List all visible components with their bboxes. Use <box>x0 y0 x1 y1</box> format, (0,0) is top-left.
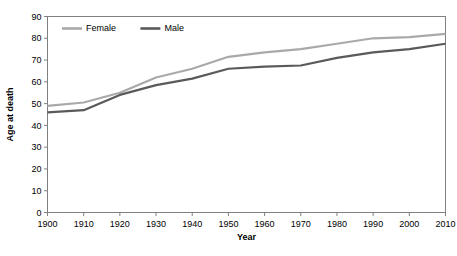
y-tick-label: 40 <box>31 121 41 131</box>
y-tick-label: 10 <box>31 186 41 196</box>
y-tick-label: 70 <box>31 55 41 65</box>
y-tick-label: 80 <box>31 33 41 43</box>
x-tick-label: 1980 <box>327 219 347 229</box>
x-tick-label: 1940 <box>182 219 202 229</box>
x-tick-label: 1950 <box>218 219 238 229</box>
x-tick-label: 1960 <box>255 219 275 229</box>
x-tick-label: 1900 <box>37 219 57 229</box>
chart-canvas: 0102030405060708090 19001910192019301940… <box>0 0 457 256</box>
y-tick-label: 90 <box>31 12 41 22</box>
y-axis-title: Age at death <box>5 87 15 141</box>
y-tick-label: 0 <box>36 208 41 218</box>
x-tick-label: 1920 <box>110 219 130 229</box>
x-tick-label: 1970 <box>291 219 311 229</box>
life-expectancy-line-chart: 0102030405060708090 19001910192019301940… <box>0 0 457 256</box>
legend-label-female: Female <box>86 23 116 33</box>
x-axis-title: Year <box>237 232 257 242</box>
x-tick-label: 1930 <box>146 219 166 229</box>
x-tick-label: 2000 <box>399 219 419 229</box>
legend-label-male: Male <box>164 23 184 33</box>
y-tick-label: 50 <box>31 99 41 109</box>
x-tick-label: 1990 <box>363 219 383 229</box>
x-tick-label: 2010 <box>435 219 455 229</box>
y-tick-label: 60 <box>31 77 41 87</box>
y-tick-label: 30 <box>31 142 41 152</box>
x-tick-label: 1910 <box>74 219 94 229</box>
y-tick-label: 20 <box>31 164 41 174</box>
